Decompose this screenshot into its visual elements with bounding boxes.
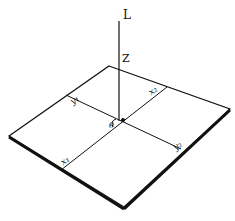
- origin-point: [121, 118, 125, 122]
- label-theta: θ: [109, 121, 114, 130]
- diagram-canvas: L Z θ y₁ x₂ x₁ y₂: [0, 0, 235, 221]
- label-L: L: [123, 8, 131, 22]
- label-Z: Z: [122, 52, 130, 65]
- plate-diagram: L Z θ y₁ x₂ x₁ y₂: [0, 0, 235, 221]
